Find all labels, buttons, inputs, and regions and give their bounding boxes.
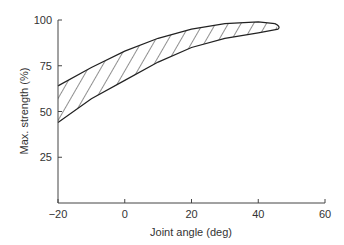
y-tick-label: 25 — [40, 151, 52, 163]
x-tick-label: 20 — [185, 208, 197, 220]
y-tick-label: 50 — [40, 106, 52, 118]
y-axis-label: Max. strength (%) — [18, 68, 30, 155]
x-tick-label: 0 — [122, 208, 128, 220]
y-tick-label: 75 — [40, 60, 52, 72]
x-tick-label: 40 — [252, 208, 264, 220]
strength-angle-chart: 255075100−200204060 Joint angle (deg) Ma… — [0, 0, 344, 245]
x-axis-label: Joint angle (deg) — [150, 226, 232, 238]
x-tick-label: 60 — [319, 208, 331, 220]
strength-band — [58, 22, 279, 123]
y-tick-label: 100 — [34, 14, 52, 26]
x-tick-label: −20 — [49, 208, 68, 220]
